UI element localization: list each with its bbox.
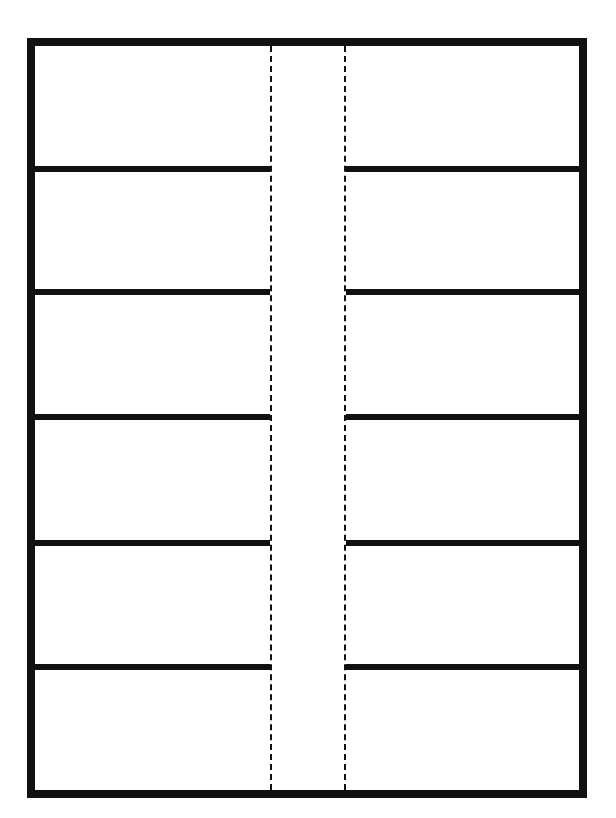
left-panel-6 [35, 670, 270, 790]
template-frame [27, 38, 587, 798]
right-panel-6 [346, 670, 579, 790]
left-panel-1 [35, 46, 270, 166]
left-panel-2 [35, 172, 270, 289]
left-panel-4 [35, 420, 270, 540]
right-panel-2 [346, 172, 579, 289]
right-panel-5 [346, 546, 579, 664]
left-fold-line [270, 46, 272, 790]
left-panel-5 [35, 546, 270, 664]
right-panel-3 [346, 295, 579, 414]
right-panel-1 [346, 46, 579, 166]
right-panel-4 [346, 420, 579, 540]
left-panel-3 [35, 295, 270, 414]
